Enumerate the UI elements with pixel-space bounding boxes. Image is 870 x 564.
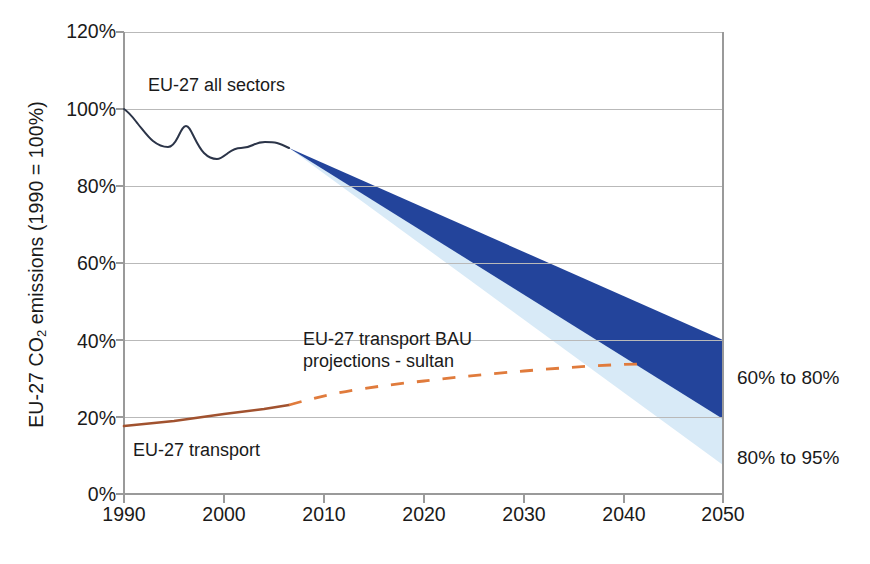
y-axis-ticks: [116, 32, 124, 494]
x-axis-ticks: [124, 494, 723, 503]
annotation-transport: EU-27 transport: [133, 440, 260, 462]
annotation-band-60-to-80: 60% to 80%: [737, 368, 839, 387]
band-60-to-80: [289, 148, 723, 419]
annotation-transport-bau: EU-27 transport BAU projections - sultan: [303, 329, 472, 373]
annotation-all-sectors: EU-27 all sectors: [148, 75, 285, 97]
annotation-transport-bau-line1: EU-27 transport BAU: [303, 329, 472, 351]
chart-container: EU-27 CO2 emissions (1990 = 100%) 120% 1…: [0, 0, 870, 564]
series-line-all-sectors: [124, 109, 289, 159]
annotation-transport-bau-line2: projections - sultan: [303, 351, 472, 373]
annotation-band-80-to-95: 80% to 95%: [737, 448, 839, 467]
series-line-transport: [124, 405, 289, 426]
plot-area: [0, 0, 870, 564]
